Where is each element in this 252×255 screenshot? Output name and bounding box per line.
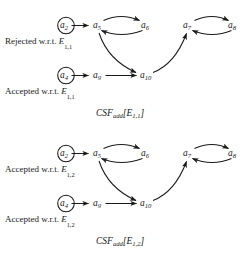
node-a2: a2	[60, 21, 68, 31]
node-a5: a5	[93, 149, 101, 159]
edge-a10-a7	[153, 162, 187, 201]
panel-csf-e11: a2 a5 a6 a7 a8 a4 a9 a10 Rejected w.r.t.…	[0, 0, 252, 127]
edge-a8-a7	[193, 159, 232, 163]
node-a9: a9	[93, 199, 101, 209]
node-a10: a10	[140, 199, 151, 209]
edge-a5-a6	[104, 145, 140, 149]
status-label-accepted-e11: Accepted w.r.t. E1,1	[5, 86, 75, 98]
edge-a5-a10	[99, 33, 136, 73]
panel-csf-e12: a2 a5 a6 a7 a8 a4 a9 a10 Accepted w.r.t.…	[0, 128, 252, 255]
edge-a10-a7	[153, 34, 187, 73]
node-a8: a8	[228, 149, 236, 159]
edge-a7-a8	[195, 145, 229, 149]
status-label-accepted-e12-lower: Accepted w.r.t. E1,2	[5, 214, 75, 226]
node-a2: a2	[60, 149, 68, 159]
edge-a5-a6	[104, 17, 140, 21]
edge-a6-a5	[102, 31, 143, 35]
node-a7: a7	[183, 21, 191, 31]
node-a5: a5	[93, 21, 101, 31]
node-a10: a10	[140, 71, 151, 81]
node-a4: a4	[60, 71, 68, 81]
caption-csf-e12: CSFadd[E1,2]	[96, 236, 144, 246]
status-label-accepted-e12-upper: Accepted w.r.t. E1,2	[5, 164, 75, 176]
edge-a6-a5	[102, 159, 143, 163]
status-label-rejected-e11: Rejected w.r.t. E1,1	[5, 36, 72, 48]
node-a6: a6	[141, 21, 149, 31]
argumentation-framework-figure: a2 a5 a6 a7 a8 a4 a9 a10 Rejected w.r.t.…	[0, 0, 252, 255]
node-a7: a7	[183, 149, 191, 159]
node-a8: a8	[228, 21, 236, 31]
caption-csf-e11: CSFadd[E1,1]	[96, 108, 144, 118]
node-a9: a9	[93, 71, 101, 81]
edge-a8-a7	[193, 31, 232, 35]
node-a4: a4	[60, 199, 68, 209]
node-a6: a6	[141, 149, 149, 159]
edge-a5-a10	[99, 161, 136, 201]
edge-a7-a8	[195, 17, 229, 21]
